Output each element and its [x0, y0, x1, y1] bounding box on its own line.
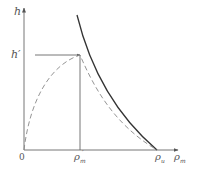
h-prime-label: h′: [11, 48, 21, 61]
rho-m-prime-label: ρ m ′: [73, 149, 86, 164]
svg-text:m: m: [180, 157, 186, 164]
diagram-canvas: h h′ 0 ρ m ′ ρ u ρ m: [0, 0, 198, 169]
svg-text:u: u: [161, 157, 165, 164]
solid-curve: [77, 15, 157, 150]
svg-text:ρ: ρ: [73, 151, 80, 162]
svg-text:ρ: ρ: [154, 151, 161, 162]
svg-text:m: m: [80, 157, 86, 164]
dashed-curve: [24, 55, 157, 150]
svg-text:ρ: ρ: [173, 151, 180, 162]
origin-label: 0: [19, 152, 25, 162]
x-axis-label: ρ m: [173, 151, 186, 164]
y-axis-label: h: [14, 5, 21, 18]
rho-u-label: ρ u: [154, 151, 165, 164]
